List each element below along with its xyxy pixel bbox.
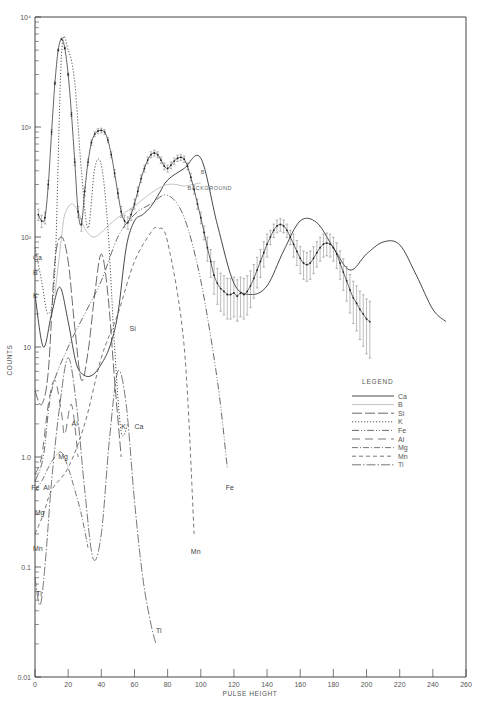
curve-labels: CaBKSiKCaAlMgFeAlMgMnTiFeMnTi bbox=[31, 254, 234, 634]
x-tick-label: 200 bbox=[361, 681, 373, 688]
curve-label-ti: Ti bbox=[156, 627, 162, 634]
y-axis-title: COUNTS bbox=[6, 344, 13, 375]
legend-label: Mg bbox=[398, 444, 408, 452]
curve-k bbox=[35, 36, 128, 436]
legend-label: Mn bbox=[398, 453, 408, 460]
legend: LEGENDCaBSiKFeAlMgMnTi bbox=[352, 378, 408, 468]
curve-label-mn: Mn bbox=[33, 545, 43, 552]
legend-item-k: K bbox=[352, 418, 403, 425]
x-tick-label: 160 bbox=[294, 681, 306, 688]
curve-label-mn: Mn bbox=[191, 548, 201, 555]
annotation-background: BACKGROUND bbox=[188, 185, 232, 191]
curve-label-si: Si bbox=[129, 325, 136, 332]
legend-label: Ti bbox=[398, 461, 404, 468]
legend-item-mg: Mg bbox=[352, 444, 408, 452]
legend-title: LEGEND bbox=[362, 378, 394, 385]
curve-label-b: B bbox=[33, 269, 38, 276]
x-tick-label: 80 bbox=[164, 681, 172, 688]
x-tick-label: 40 bbox=[97, 681, 105, 688]
y-tick-label: 10³ bbox=[21, 124, 32, 131]
y-tick-label: 0.01 bbox=[17, 674, 31, 681]
legend-item-fe: Fe bbox=[352, 427, 406, 434]
annotation-b: B bbox=[201, 169, 205, 175]
x-tick-label: 180 bbox=[328, 681, 340, 688]
annotations: BACKGROUNDB bbox=[188, 169, 232, 190]
x-tick-label: 0 bbox=[33, 681, 37, 688]
measured-data-points bbox=[37, 38, 371, 358]
y-tick-label: 10² bbox=[21, 234, 32, 241]
plot-border bbox=[35, 17, 466, 677]
curve-mg bbox=[35, 452, 88, 548]
curve-label-k: K bbox=[33, 292, 38, 299]
curve-label-ca: Ca bbox=[134, 423, 143, 430]
curve-label-k: K bbox=[121, 423, 126, 430]
legend-label: Ca bbox=[398, 393, 407, 400]
y-tick-label: 10 bbox=[23, 344, 31, 351]
curve-label-ti: Ti bbox=[36, 590, 42, 597]
legend-label: K bbox=[398, 418, 403, 425]
curve-label-ca: Ca bbox=[33, 254, 42, 261]
legend-item-mn: Mn bbox=[352, 453, 408, 460]
legend-item-ti: Ti bbox=[352, 461, 404, 468]
x-tick-label: 260 bbox=[460, 681, 472, 688]
curve-label-fe: Fe bbox=[226, 484, 234, 491]
x-axis-title: PULSE HEIGHT bbox=[223, 690, 278, 697]
element-curves bbox=[35, 36, 446, 644]
x-tick-label: 100 bbox=[195, 681, 207, 688]
legend-label: Al bbox=[398, 436, 405, 443]
curve-label-al: Al bbox=[43, 484, 50, 491]
curve-si bbox=[35, 237, 121, 457]
legend-item-b: B bbox=[352, 401, 403, 408]
curve-fe bbox=[35, 195, 227, 482]
legend-item-al: Al bbox=[352, 436, 405, 443]
spectrum-chart: 0.010.11.01010²10³10⁴ 020406080100120140… bbox=[0, 0, 482, 707]
curve-label-al: Al bbox=[71, 420, 78, 427]
x-tick-label: 60 bbox=[131, 681, 139, 688]
y-tick-label: 1.0 bbox=[21, 454, 31, 461]
legend-item-si: Si bbox=[352, 410, 405, 417]
y-tick-label: 0.1 bbox=[21, 564, 31, 571]
curve-ca bbox=[35, 155, 446, 376]
curve-label-mg: Mg bbox=[58, 453, 68, 461]
curve-label-fe: Fe bbox=[31, 484, 39, 491]
y-tick-label: 10⁴ bbox=[20, 14, 31, 21]
curve-label-mg: Mg bbox=[35, 509, 45, 517]
plot-frame bbox=[35, 17, 466, 677]
x-tick-label: 20 bbox=[64, 681, 72, 688]
legend-item-ca: Ca bbox=[352, 393, 407, 400]
x-tick-label: 120 bbox=[228, 681, 240, 688]
curve-ti bbox=[35, 358, 156, 644]
legend-label: Fe bbox=[398, 427, 406, 434]
y-axis: 0.010.11.01010²10³10⁴ bbox=[17, 14, 41, 681]
x-tick-label: 240 bbox=[427, 681, 439, 688]
x-tick-label: 220 bbox=[394, 681, 406, 688]
legend-label: B bbox=[398, 401, 403, 408]
legend-label: Si bbox=[398, 410, 405, 417]
x-tick-label: 140 bbox=[261, 681, 273, 688]
measured-trace bbox=[38, 39, 370, 322]
x-axis: 020406080100120140160180200220240260 bbox=[33, 669, 472, 688]
